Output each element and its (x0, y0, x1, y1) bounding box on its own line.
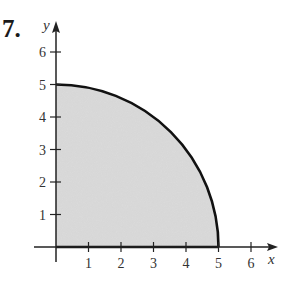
shaded-region (56, 85, 219, 248)
svg-text:6: 6 (248, 256, 255, 271)
x-axis-label: x (267, 251, 275, 267)
svg-text:4: 4 (39, 110, 46, 125)
svg-text:1: 1 (85, 256, 92, 271)
svg-text:2: 2 (39, 175, 46, 190)
y-tick-labels: 1 2 3 4 5 6 (39, 45, 46, 223)
y-axis-label: y (41, 17, 50, 33)
svg-text:6: 6 (39, 45, 46, 60)
svg-text:5: 5 (215, 256, 222, 271)
quarter-circle-diagram: 1 2 3 4 5 6 1 2 3 4 5 6 x y (0, 0, 282, 295)
x-tick-labels: 1 2 3 4 5 6 (85, 256, 255, 271)
svg-text:1: 1 (39, 208, 46, 223)
svg-text:4: 4 (183, 256, 190, 271)
svg-text:3: 3 (39, 143, 46, 158)
svg-text:5: 5 (39, 78, 46, 93)
svg-text:3: 3 (150, 256, 157, 271)
svg-text:2: 2 (118, 256, 125, 271)
